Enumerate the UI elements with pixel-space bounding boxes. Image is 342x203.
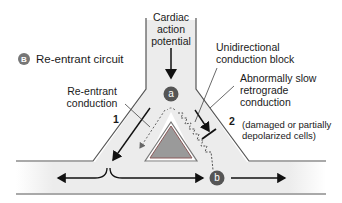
label-line: Re-entrant bbox=[52, 85, 132, 97]
label-line: conduction bbox=[52, 97, 132, 109]
cardiac-action-potential-label: Cardiac action potential bbox=[146, 11, 196, 47]
label-line: (damaged or partially bbox=[242, 119, 331, 130]
label-line: Abnormally slow bbox=[240, 72, 316, 84]
point-a-label: a bbox=[164, 88, 178, 100]
branch-2-number: 2 bbox=[229, 115, 235, 127]
panel-title: B Re-entrant circuit bbox=[18, 53, 124, 65]
label-line: action bbox=[146, 23, 196, 35]
label-line: retrograde bbox=[240, 84, 316, 96]
label-line: depolarized cells) bbox=[242, 130, 331, 141]
panel-title-text: Re-entrant circuit bbox=[36, 53, 124, 65]
panel-letter-badge: B bbox=[18, 53, 30, 65]
label-line: conduction bbox=[240, 96, 316, 108]
label-line: Unidirectional bbox=[216, 41, 294, 53]
label-line: Cardiac bbox=[146, 11, 196, 23]
label-line: potential bbox=[146, 35, 196, 47]
slow-retrograde-label: Abnormally slow retrograde conduction bbox=[240, 72, 316, 108]
label-line: conduction block bbox=[216, 53, 294, 65]
point-b-label: b bbox=[210, 172, 224, 184]
damaged-cells-note: (damaged or partially depolarized cells) bbox=[242, 119, 331, 141]
unidirectional-block-label: Unidirectional conduction block bbox=[216, 41, 294, 65]
reentrant-conduction-label: Re-entrant conduction bbox=[52, 85, 132, 109]
branch-1-number: 1 bbox=[113, 113, 119, 125]
